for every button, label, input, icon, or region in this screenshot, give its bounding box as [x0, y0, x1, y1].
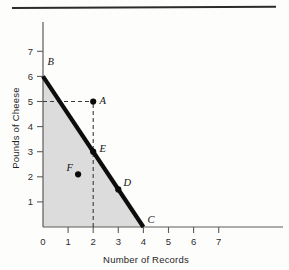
point-label-D: D [123, 177, 132, 188]
point-label-A: A [99, 95, 107, 106]
y-tick-label-4: 4 [28, 121, 33, 132]
point-label-C: C [148, 214, 156, 225]
y-axis-ticks [37, 51, 43, 202]
y-tick-label-5: 5 [28, 96, 33, 107]
y-tick-label-2: 2 [28, 171, 33, 182]
y-tick-label-6: 6 [28, 71, 33, 82]
data-point-D [115, 186, 121, 192]
y-axis-title: Pounds of Cheese [10, 87, 21, 168]
y-tick-label-7: 7 [28, 46, 33, 57]
x-tick-label-7: 7 [216, 236, 221, 247]
x-tick-label-1: 1 [65, 236, 70, 247]
x-tick-label-3: 3 [116, 236, 121, 247]
x-tick-label-2: 2 [91, 236, 96, 247]
y-tick-label-3: 3 [28, 146, 33, 157]
data-point-F [75, 171, 81, 177]
point-label-F: F [66, 162, 74, 173]
x-tick-label-5: 5 [166, 236, 171, 247]
y-tick-label-1: 1 [28, 196, 33, 207]
data-point-E [90, 149, 96, 155]
x-axis-ticks [68, 227, 219, 233]
ppf-chart: 1 2 3 4 5 6 7 0 1 2 3 4 5 6 7 [0, 0, 289, 270]
figure-container: 1 2 3 4 5 6 7 0 1 2 3 4 5 6 7 [0, 0, 289, 270]
point-label-B: B [48, 56, 55, 67]
x-axis-title: Number of Records [103, 254, 189, 265]
x-tick-label-4: 4 [141, 236, 146, 247]
x-tick-label-6: 6 [191, 236, 196, 247]
data-point-A [90, 98, 96, 104]
x-tick-label-0: 0 [40, 236, 45, 247]
point-label-E: E [99, 143, 107, 154]
